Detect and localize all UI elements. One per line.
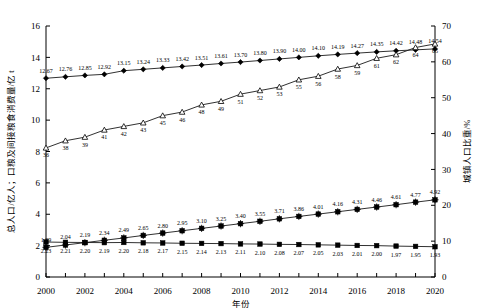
marker-diamond — [355, 51, 360, 56]
right-tick-label: 30 — [442, 165, 452, 175]
marker-square — [122, 240, 127, 245]
data-label: 13.51 — [195, 55, 209, 61]
data-label: 2.17 — [157, 248, 168, 254]
right-tick-label: 20 — [442, 200, 452, 210]
marker-square — [433, 244, 438, 249]
data-label: 4.16 — [333, 201, 344, 207]
marker-square — [219, 241, 224, 246]
marker-diamond — [277, 56, 282, 61]
data-label: 62 — [393, 59, 399, 65]
marker-diamond — [102, 72, 107, 77]
data-label: 12.76 — [59, 66, 73, 72]
marker-diamond — [374, 49, 379, 54]
data-label: 13.24 — [137, 59, 151, 65]
data-label: 13.80 — [253, 50, 267, 56]
marker-diamond — [180, 64, 185, 69]
right-tick-label: 50 — [442, 93, 452, 103]
data-label: 3.86 — [294, 206, 305, 212]
right-tick-label: 70 — [442, 21, 452, 31]
data-label: 2.03 — [333, 251, 344, 257]
x-tick-label: 2006 — [154, 286, 173, 296]
data-label: 2.20 — [80, 248, 91, 254]
series-2: 3638394142434546484951525355565859616264… — [43, 41, 438, 158]
marker-square — [335, 243, 340, 248]
marker-square — [258, 242, 263, 247]
data-label: 2.95 — [177, 220, 188, 226]
data-label: 2.19 — [80, 232, 91, 238]
marker-square — [63, 240, 68, 245]
series-4: 2.232.212.202.192.202.182.172.152.142.13… — [41, 240, 441, 259]
marker-diamond — [141, 67, 146, 72]
data-label: 13.90 — [273, 48, 287, 54]
data-label: 13.70 — [234, 52, 248, 58]
marker-diamond — [43, 76, 48, 81]
marker-cross-square — [256, 218, 263, 225]
data-label: 13.15 — [117, 60, 131, 66]
data-label: 3.71 — [274, 208, 285, 214]
left-tick-label: 2 — [36, 241, 41, 251]
marker-diamond — [82, 73, 87, 78]
left-tick-label: 12 — [31, 84, 40, 94]
data-label: 2.80 — [157, 223, 168, 229]
right-tick-label: 40 — [442, 129, 452, 139]
marker-square — [355, 243, 360, 248]
data-label: 1.95 — [410, 252, 421, 258]
right-tick-label: 60 — [442, 57, 452, 67]
data-label: 2.10 — [255, 250, 266, 256]
data-label: 55 — [296, 84, 302, 90]
marker-diamond — [316, 53, 321, 58]
left-tick-label: 10 — [31, 115, 41, 125]
marker-cross-square — [159, 229, 166, 236]
marker-square — [238, 242, 243, 247]
marker-cross-square — [140, 232, 147, 239]
chart-canvas: 0246810121416010203040506070200020022004… — [0, 0, 479, 308]
data-label: 51 — [238, 99, 244, 105]
data-label: 2.19 — [99, 248, 110, 254]
marker-diamond — [218, 61, 223, 66]
x-tick-label: 2000 — [37, 286, 56, 296]
data-label: 2.18 — [138, 248, 149, 254]
left-tick-label: 16 — [31, 21, 41, 31]
x-tick-label: 2018 — [387, 286, 406, 296]
data-label: 53 — [276, 91, 282, 97]
data-label: 65 — [432, 48, 438, 54]
data-label: 48 — [199, 109, 205, 115]
data-label: 3.10 — [196, 218, 207, 224]
data-label: 14.35 — [370, 41, 384, 47]
data-label: 38 — [62, 145, 68, 151]
marker-square — [316, 243, 321, 248]
data-label: 4.01 — [313, 204, 324, 210]
marker-diamond — [335, 52, 340, 57]
marker-diamond — [257, 58, 262, 63]
data-label: 4.31 — [352, 199, 363, 205]
data-label: 12.92 — [98, 64, 112, 70]
x-tick-label: 2004 — [115, 286, 134, 296]
data-label: 3.40 — [235, 213, 246, 219]
data-label: 14.10 — [312, 45, 326, 51]
marker-cross-square — [179, 227, 186, 234]
data-label: 14.00 — [292, 47, 306, 53]
marker-square — [83, 240, 88, 245]
data-label: 43 — [140, 127, 146, 133]
data-label: 42 — [121, 131, 127, 137]
data-label: 2.01 — [352, 251, 363, 257]
left-tick-label: 0 — [36, 272, 41, 282]
data-label: 46 — [179, 117, 185, 123]
marker-cross-square — [237, 220, 244, 227]
data-label: 13.61 — [214, 53, 228, 59]
chart-figure: 0246810121416010203040506070200020022004… — [0, 0, 479, 308]
data-label: 2.14 — [196, 249, 207, 255]
x-tick-label: 2002 — [76, 286, 94, 296]
marker-cross-square — [217, 222, 224, 229]
data-label: 2.11 — [235, 249, 245, 255]
data-label: 14.19 — [331, 44, 345, 50]
marker-square — [297, 242, 302, 247]
data-label: 12.85 — [78, 65, 92, 71]
marker-diamond — [296, 55, 301, 60]
marker-square — [160, 241, 165, 246]
left-axis-title: 总人口/亿人；口粮及间接粮食消费量/亿 t — [6, 70, 16, 233]
data-label: 52 — [257, 95, 263, 101]
data-label: 2.34 — [99, 230, 110, 236]
data-label: 59 — [354, 70, 360, 76]
marker-cross-square — [412, 199, 419, 206]
